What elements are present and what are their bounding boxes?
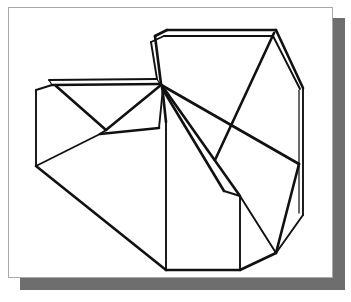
v-notch-right-fold xyxy=(106,85,161,130)
bottom-right-edge xyxy=(240,253,276,270)
center-notch-to-bevel xyxy=(240,196,276,253)
left-top-corner-join xyxy=(36,85,52,90)
polyhedron-line-drawing xyxy=(0,0,351,302)
screenshot-root xyxy=(0,0,351,302)
left-front-diagonal-lower xyxy=(36,166,166,270)
v-notch-left-fold xyxy=(56,86,106,130)
upper-back-ridge-front-line xyxy=(52,84,160,85)
peak-shoulder-edge-back xyxy=(151,36,164,42)
left-front-face-fold xyxy=(36,134,100,166)
right-gable-slope-inner xyxy=(273,36,300,89)
upper-back-ridge-back-line xyxy=(49,79,157,80)
roof-inner-fold xyxy=(215,33,274,160)
right-gable-slope xyxy=(276,30,303,88)
shelf-right-to-apex-fold xyxy=(159,88,163,128)
fan-edge-middle xyxy=(163,87,240,196)
right-face-lower-fold xyxy=(276,164,299,253)
